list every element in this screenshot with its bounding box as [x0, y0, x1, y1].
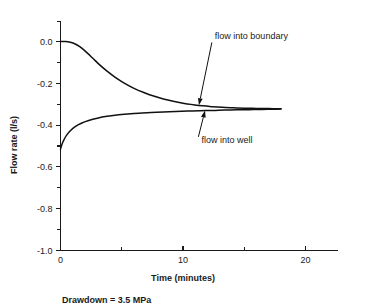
annotation-label-0: flow into boundary — [215, 31, 289, 41]
annotation-leader-0 — [200, 42, 212, 98]
figure-container: 0.0-0.2-0.4-0.6-0.8-1.001020 flow into b… — [0, 0, 365, 308]
annotation-arrow-1 — [201, 110, 206, 117]
chart-axes — [56, 22, 339, 251]
x-axis-tick-label: 20 — [300, 255, 310, 265]
annotation-label-1: flow into well — [201, 135, 252, 145]
chart-tick-labels: 0.0-0.2-0.4-0.6-0.8-1.001020 — [37, 37, 311, 265]
x-axis-tick-label: 10 — [178, 255, 188, 265]
x-axis-title: Time (minutes) — [151, 273, 215, 283]
y-axis-tick-label: -0.8 — [37, 204, 53, 214]
chart-annotations: flow into boundaryflow into well — [198, 31, 288, 144]
y-axis-tick-label: -0.4 — [37, 120, 53, 130]
x-axis-tick-label: 0 — [58, 255, 63, 265]
y-axis-tick-label: 0.0 — [40, 37, 53, 47]
annotation-arrow-0 — [198, 98, 203, 105]
series-line-flow-into-boundary — [61, 41, 282, 108]
chart-series — [61, 41, 282, 149]
y-axis-title: Flow rate (l/s) — [9, 116, 19, 174]
flow-rate-chart: 0.0-0.2-0.4-0.6-0.8-1.001020 flow into b… — [0, 0, 365, 308]
figure-caption: Drawdown = 3.5 MPa — [62, 295, 152, 305]
y-axis-tick-label: -1.0 — [37, 246, 53, 256]
y-axis-tick-label: -0.2 — [37, 79, 53, 89]
y-axis-tick-label: -0.6 — [37, 162, 53, 172]
